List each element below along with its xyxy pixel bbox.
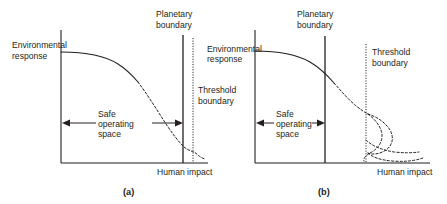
panel-b-caption: (b) bbox=[318, 187, 330, 197]
panel-b-planetary-boundary-label-line2: boundary bbox=[297, 20, 334, 30]
panel-a-safe-space-label-line1: Safe bbox=[98, 109, 116, 119]
panel-b-threshold-boundary-label-line1: Threshold bbox=[372, 47, 410, 57]
panel-b-fold-upper-branch bbox=[368, 114, 392, 154]
mid-labels: Environmental response bbox=[207, 44, 262, 64]
panel-a-caption: (a) bbox=[123, 187, 134, 197]
panel-b-y-axis-label-line2: response bbox=[207, 54, 243, 64]
panel-b-safe-space-label-line2: operating bbox=[276, 119, 312, 129]
panel-a-safe-space-label-line3: space bbox=[98, 129, 121, 139]
panel-a-response-curve-solid bbox=[61, 52, 138, 82]
panel-a-planetary-boundary-label-line2: boundary bbox=[156, 20, 193, 30]
panel-a-safe-space-label-line2: operating bbox=[98, 119, 134, 129]
panel-a-threshold-boundary-label-line2: boundary bbox=[198, 96, 235, 106]
figure-container: Environmental response Planetary boundar… bbox=[0, 0, 447, 204]
panel-b-safe-space-label-line3: space bbox=[276, 129, 299, 139]
panel-b-safe-space-label-line1: Safe bbox=[276, 109, 294, 119]
panel-a-x-axis-label: Human impact bbox=[157, 167, 213, 177]
panel-b-response-curve-solid bbox=[255, 51, 334, 83]
panel-a: Environmental response Planetary boundar… bbox=[12, 9, 236, 197]
panel-a-threshold-boundary-label-line1: Threshold bbox=[198, 85, 236, 95]
panel-b-x-axis-label: Human impact bbox=[377, 167, 433, 177]
panel-b-response-curve-dashed bbox=[334, 83, 368, 114]
panel-b-y-axis-label-line1: Environmental bbox=[207, 44, 262, 54]
panel-b-threshold-boundary-label-line2: boundary bbox=[372, 58, 409, 68]
panel-a-y-axis-label-line1: Environmental bbox=[12, 40, 67, 50]
planetary-boundary-figure: Environmental response Planetary boundar… bbox=[0, 0, 447, 204]
panel-b: Planetary boundary Threshold boundary Sa… bbox=[255, 9, 433, 197]
panel-a-y-axis-label-line2: response bbox=[12, 51, 48, 61]
panel-a-planetary-boundary-label-line1: Planetary bbox=[156, 9, 193, 19]
panel-b-planetary-boundary-label-line1: Planetary bbox=[297, 9, 334, 19]
